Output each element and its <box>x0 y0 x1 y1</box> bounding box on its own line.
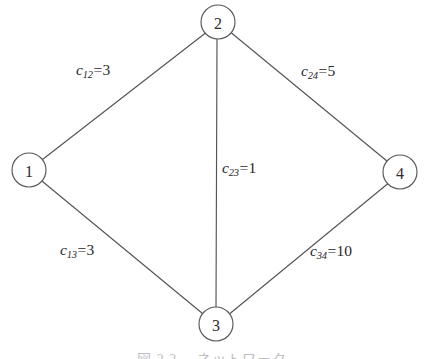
edge-label-2-4: c24=5 <box>301 63 335 81</box>
node-2-label: 2 <box>214 15 222 32</box>
edge-2-4 <box>232 33 388 162</box>
graph-canvas: 1 2 3 4 <box>0 0 424 359</box>
edge-1-2 <box>43 33 206 160</box>
edge-label-1-2-subscript: 12 <box>83 69 93 80</box>
equals-sign: = <box>77 241 86 258</box>
edge-label-1-2: c12=3 <box>76 62 110 80</box>
node-3-label: 3 <box>212 317 220 334</box>
edge-label-2-4-cost: 5 <box>328 62 336 79</box>
edge-label-2-3-var: c <box>222 159 229 176</box>
edge-label-1-2-cost: 3 <box>103 61 111 78</box>
edge-label-1-3-var: c <box>60 241 67 258</box>
equals-sign: = <box>93 61 102 78</box>
edge-label-3-4-cost: 10 <box>337 242 352 259</box>
figure-caption: 図 2.2 ネットワーク <box>0 348 424 359</box>
node-group: 1 2 3 4 <box>12 5 417 341</box>
edge-label-1-3: c13=3 <box>60 242 94 260</box>
equals-sign: = <box>239 159 248 176</box>
edge-label-2-4-subscript: 24 <box>308 70 318 81</box>
edge-label-2-3-subscript: 23 <box>229 167 239 178</box>
edge-label-2-4-var: c <box>301 62 308 79</box>
edge-3-4 <box>230 184 388 314</box>
edge-label-2-3: c23=1 <box>222 160 256 178</box>
edge-label-2-3-cost: 1 <box>249 159 257 176</box>
edge-label-3-4-subscript: 34 <box>317 250 327 261</box>
edge-label-1-2-var: c <box>76 61 83 78</box>
network-diagram-figure: 1 2 3 4 c12=3 c24=5 c23=1 c13=3 c34=10 図… <box>0 0 424 359</box>
edge-2-3 <box>216 39 217 307</box>
edge-label-3-4: c34=10 <box>310 243 352 261</box>
node-4-label: 4 <box>396 165 404 182</box>
equals-sign: = <box>318 62 327 79</box>
edge-label-1-3-cost: 3 <box>87 241 95 258</box>
edge-label-3-4-var: c <box>310 242 317 259</box>
edge-label-1-3-subscript: 13 <box>67 249 77 260</box>
equals-sign: = <box>327 242 336 259</box>
node-1-label: 1 <box>25 163 33 180</box>
